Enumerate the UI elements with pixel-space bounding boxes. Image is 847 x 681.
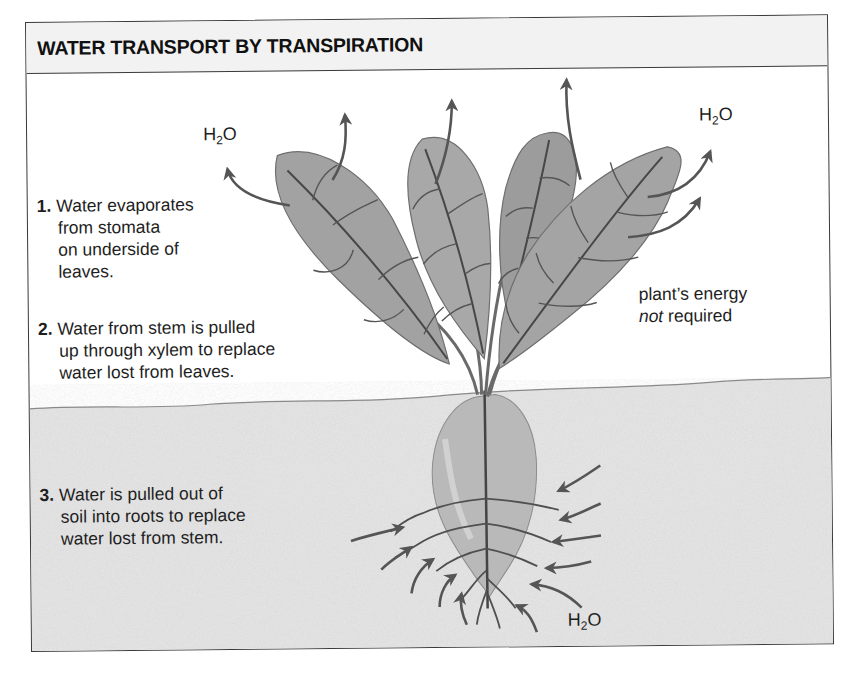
step-number: 2. [38,319,53,339]
h2o-label-upper-left: H2O [203,124,237,147]
step-2-label: 2. Water from stem is pulled up through … [38,316,276,384]
leaves [275,131,683,370]
step-number: 3. [39,485,54,505]
step-1-label: 1. Water evaporates from stomata on unde… [37,193,195,283]
h2o-label-upper-right: H2O [699,104,733,127]
figure-frame: WATER TRANSPORT BY TRANSPIRATION [25,14,834,652]
step-3-label: 3. Water is pulled out of soil into root… [39,482,245,550]
step-number: 1. [37,196,52,216]
energy-note: plant’s energy not required [639,282,748,327]
h2o-label-soil: H2O [568,609,602,632]
